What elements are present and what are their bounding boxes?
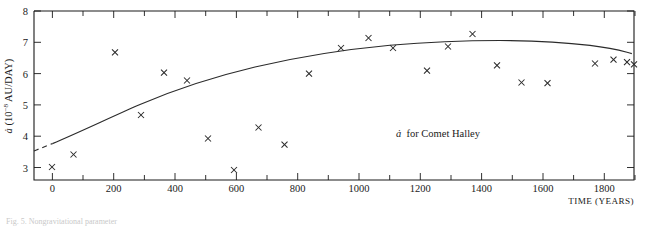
x-tick-label-1000: 1000 bbox=[349, 183, 370, 194]
data-point bbox=[256, 125, 262, 131]
data-point bbox=[494, 62, 500, 68]
axes-box bbox=[34, 11, 634, 180]
x-axis-title: TIME (YEARS) bbox=[568, 196, 634, 206]
plot-frame bbox=[34, 11, 634, 180]
x-tick-label-0: 0 bbox=[50, 183, 55, 194]
plot-annotation: ȧ for Comet Halley bbox=[396, 128, 481, 139]
data-point bbox=[231, 167, 237, 173]
x-tick-label-200: 200 bbox=[106, 183, 122, 194]
data-point bbox=[205, 136, 211, 142]
data-point bbox=[112, 49, 118, 55]
figure-container: 8 7 6 5 4 3 ȧ (10−8 AU/DAY) bbox=[0, 0, 647, 226]
data-point bbox=[611, 57, 617, 63]
caption-fragment: Fig. 5. Nongravitational parameter bbox=[6, 217, 326, 226]
y-tick-label-8: 8 bbox=[23, 6, 28, 17]
data-point bbox=[71, 152, 77, 158]
data-point bbox=[282, 142, 288, 148]
data-point bbox=[519, 80, 525, 86]
y-tick-label-5: 5 bbox=[23, 100, 28, 111]
data-point bbox=[424, 68, 430, 74]
data-point bbox=[366, 35, 372, 41]
y-tick-label-6: 6 bbox=[23, 69, 28, 80]
x-tick-label-400: 400 bbox=[167, 183, 183, 194]
data-point bbox=[592, 61, 598, 67]
data-point bbox=[138, 112, 144, 118]
x-tick-label-600: 600 bbox=[229, 183, 245, 194]
data-point bbox=[161, 70, 167, 76]
y-axis: 8 7 6 5 4 3 bbox=[23, 6, 634, 174]
x-tick-label-800: 800 bbox=[290, 183, 306, 194]
svg-text:ȧ (10−8 AU/DAY): ȧ (10−8 AU/DAY) bbox=[2, 58, 15, 133]
fit-curve-group bbox=[34, 41, 634, 152]
x-tick-group-top bbox=[52, 11, 635, 18]
data-point bbox=[470, 31, 476, 37]
data-point bbox=[624, 59, 630, 65]
data-point bbox=[545, 80, 551, 86]
x-tick-label-1600: 1600 bbox=[533, 183, 554, 194]
y-tick-label-3: 3 bbox=[23, 163, 28, 174]
data-point bbox=[306, 71, 312, 77]
x-tick-label-1400: 1400 bbox=[471, 183, 492, 194]
y-tick-label-7: 7 bbox=[23, 37, 28, 48]
data-point bbox=[338, 45, 344, 51]
data-point bbox=[445, 44, 451, 50]
fit-curve-extrapolation-right bbox=[627, 52, 634, 54]
x-tick-label-1200: 1200 bbox=[410, 183, 431, 194]
x-axis: 0 200 400 600 800 1000 1200 1400 1600 18… bbox=[50, 11, 635, 194]
fit-curve-solid bbox=[52, 41, 627, 144]
x-tick-label-1800: 1800 bbox=[594, 183, 615, 194]
data-points bbox=[49, 31, 637, 173]
data-point bbox=[49, 164, 55, 170]
data-point bbox=[184, 78, 190, 84]
y-tick-label-4: 4 bbox=[23, 131, 29, 142]
y-tick-group bbox=[34, 11, 634, 168]
y-axis-title-group: ȧ (10−8 AU/DAY) bbox=[2, 58, 15, 133]
halley-nongravitational-parameter-chart: 8 7 6 5 4 3 ȧ (10−8 AU/DAY) bbox=[0, 0, 647, 226]
data-point bbox=[390, 45, 396, 51]
fit-curve-extrapolation-left bbox=[34, 144, 52, 151]
